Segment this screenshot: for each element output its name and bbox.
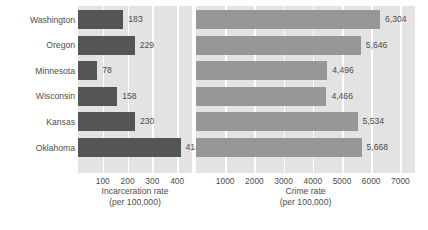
crime-rate-panel: 6,3045,6464,4964,4665,5345,668 xyxy=(196,6,415,173)
bar-crime-kansas xyxy=(196,112,358,131)
category-label-minnesota: Minnesota xyxy=(0,66,75,76)
bar-value-incarceration-wisconsin: 158 xyxy=(122,87,136,106)
category-label-washington: Washington xyxy=(0,15,75,25)
bar-value-incarceration-kansas: 230 xyxy=(140,112,154,131)
axis-title-incarceration: Incarceration rate(per 100,000) xyxy=(78,186,192,207)
bar-incarceration-washington xyxy=(78,10,123,29)
bar-value-incarceration-minnesota: 78 xyxy=(102,61,112,80)
bar-value-crime-wisconsin: 4,466 xyxy=(331,87,353,106)
bar-value-incarceration-washington: 183 xyxy=(128,10,142,29)
category-label-wisconsin: Wisconsin xyxy=(0,91,75,101)
bar-crime-minnesota xyxy=(196,61,327,80)
axis-title-line2-crime: (per 100,000) xyxy=(196,197,415,208)
incarceration-rate-panel: 18322978158230414 xyxy=(78,6,192,173)
bar-value-incarceration-oregon: 229 xyxy=(140,36,154,55)
bar-crime-oklahoma xyxy=(196,138,362,157)
bar-value-crime-oklahoma: 5,668 xyxy=(367,138,389,157)
axis-title-crime: Crime rate(per 100,000) xyxy=(196,186,415,207)
bar-crime-washington xyxy=(196,10,380,29)
bar-crime-wisconsin xyxy=(196,87,326,106)
category-label-oklahoma: Oklahoma xyxy=(0,143,75,153)
category-label-oregon: Oregon xyxy=(0,40,75,50)
category-label-kansas: Kansas xyxy=(0,117,75,127)
bar-incarceration-oregon xyxy=(78,36,135,55)
bar-value-crime-kansas: 5,534 xyxy=(363,112,385,131)
bar-crime-oregon xyxy=(196,36,361,55)
category-axis-labels: WashingtonOregonMinnesotaWisconsinKansas… xyxy=(0,0,75,175)
gridline-crime-7000 xyxy=(400,6,402,173)
bar-value-crime-washington: 6,304 xyxy=(385,10,407,29)
incarceration-crime-rate-chart: WashingtonOregonMinnesotaWisconsinKansas… xyxy=(0,0,428,230)
axis-title-line1-incarceration: Incarceration rate xyxy=(78,186,192,197)
bar-value-crime-minnesota: 4,496 xyxy=(332,61,354,80)
axis-title-line1-crime: Crime rate xyxy=(196,186,415,197)
bar-incarceration-minnesota xyxy=(78,61,97,80)
axis-title-line2-incarceration: (per 100,000) xyxy=(78,197,192,208)
bar-value-crime-oregon: 5,646 xyxy=(366,36,388,55)
bar-incarceration-kansas xyxy=(78,112,135,131)
bar-incarceration-oklahoma xyxy=(78,138,181,157)
bar-incarceration-wisconsin xyxy=(78,87,117,106)
